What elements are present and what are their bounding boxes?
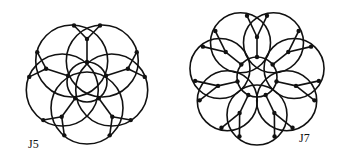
graph-j7 bbox=[190, 13, 324, 145]
label-j7: J7 bbox=[299, 131, 310, 146]
graph-j5 bbox=[26, 23, 147, 144]
flower-snarks-diagram bbox=[0, 0, 337, 160]
label-j5: J5 bbox=[28, 137, 39, 152]
